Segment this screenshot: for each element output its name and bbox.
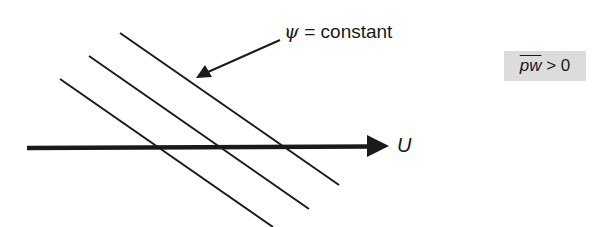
constant-text: = constant [299, 21, 392, 42]
flow-arrow-shaft [27, 147, 372, 149]
streamlines [60, 33, 339, 227]
condition-relation: > 0 [541, 56, 570, 76]
flow-velocity-label: U [397, 134, 411, 157]
leader-arrow [196, 40, 280, 78]
streamline-3 [60, 79, 273, 227]
leader-arrow-shaft [208, 40, 280, 72]
streamline-1 [120, 33, 339, 185]
flow-arrow-head-icon [367, 135, 389, 157]
condition-variable: pw [520, 56, 542, 76]
condition-box: pw > 0 [504, 51, 586, 81]
psi-symbol: ψ [284, 20, 299, 42]
streamline-2 [89, 56, 309, 209]
streamline-label: ψ = constant [284, 20, 392, 43]
